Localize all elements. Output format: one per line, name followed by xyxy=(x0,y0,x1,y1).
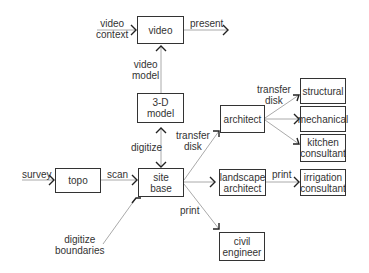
irrigation-label-line1: irrigation xyxy=(304,172,342,183)
site-base-label-line1: site xyxy=(153,172,169,183)
landscape-label-line1: landscape xyxy=(220,172,266,183)
video-box: video xyxy=(137,16,184,44)
3d-model-label-line2: model xyxy=(147,108,174,119)
architect-box: architect xyxy=(220,105,265,133)
civil-label-line1: civil xyxy=(234,236,251,247)
edge-label-survey: survey xyxy=(22,169,51,180)
edge-label-print-irrigation: print xyxy=(272,169,291,180)
irrigation-label-line2: consultant xyxy=(300,183,346,194)
edge-label-transfer-disk-consultants: transfer disk xyxy=(257,84,291,106)
edge-label-video-context: video context xyxy=(96,18,128,40)
edge-label-video-model: video model xyxy=(132,59,159,81)
3d-model-label-line1: 3-D xyxy=(152,97,168,108)
kitchen-label-line1: kitchen xyxy=(307,137,339,148)
topo-label: topo xyxy=(68,175,87,186)
landscape-architect-box: landscape architect xyxy=(219,169,266,196)
3d-model-box: 3-D model xyxy=(137,93,184,123)
civil-engineer-box: civil engineer xyxy=(219,232,265,261)
architect-label: architect xyxy=(224,114,262,125)
structural-box: structural xyxy=(300,78,346,104)
edge-label-digitize: digitize xyxy=(131,142,162,153)
civil-label-line2: engineer xyxy=(223,247,262,258)
site-base-label-line2: base xyxy=(150,183,172,194)
edge-label-transfer-disk-architect: transfer disk xyxy=(176,130,210,152)
mechanical-label: mechanical xyxy=(298,114,349,125)
site-base-box: site base xyxy=(138,168,184,197)
irrigation-consultant-box: irrigation consultant xyxy=(300,169,346,196)
edge-label-print-civil: print xyxy=(180,205,199,216)
kitchen-label-line2: consultant xyxy=(300,148,346,159)
video-label: video xyxy=(149,25,173,36)
edge-label-digitize-boundaries: digitize boundaries xyxy=(55,234,104,256)
kitchen-consultant-box: kitchen consultant xyxy=(300,134,346,162)
structural-label: structural xyxy=(302,86,343,97)
edge-label-present: present xyxy=(190,18,223,29)
edge-label-scan: scan xyxy=(107,169,128,180)
topo-box: topo xyxy=(55,168,101,193)
mechanical-box: mechanical xyxy=(300,106,346,132)
landscape-label-line2: architect xyxy=(224,183,262,194)
